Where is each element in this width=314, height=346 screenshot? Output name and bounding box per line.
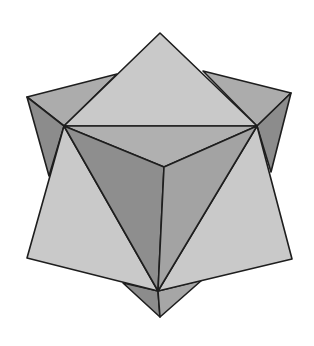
figure-canvas: Compound of cube and octahedron xyxy=(0,0,314,346)
polyhedron-compound-drawing xyxy=(0,0,314,346)
